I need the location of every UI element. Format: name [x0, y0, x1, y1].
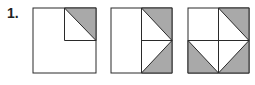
figure-3: [188, 8, 249, 73]
figures-canvas: [0, 0, 255, 85]
figure-2: [111, 8, 172, 73]
figure-1: [33, 8, 96, 73]
